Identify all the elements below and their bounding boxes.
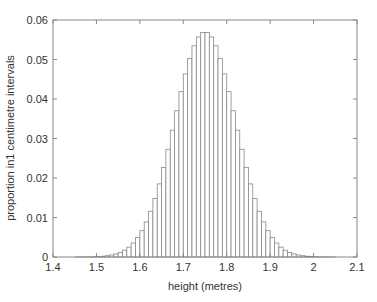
- histogram-bar: [201, 32, 205, 257]
- histogram-bar: [157, 184, 161, 257]
- histogram-bar: [175, 111, 179, 257]
- histogram-chart: 00.010.020.030.040.050.06 1.41.51.61.71.…: [0, 0, 377, 302]
- histogram-bar: [188, 58, 192, 257]
- histogram-bar: [279, 247, 283, 257]
- y-tick-label: 0.03: [27, 133, 48, 145]
- histogram-bar: [162, 167, 166, 257]
- x-tick-label: 1.5: [89, 261, 104, 273]
- y-tick-label: 0.01: [27, 212, 48, 224]
- x-tick-label: 1.9: [262, 261, 277, 273]
- y-tick-label: 0.04: [27, 93, 48, 105]
- histogram-bar: [127, 247, 131, 257]
- histogram-bar: [261, 222, 265, 257]
- histogram-bar: [222, 74, 226, 257]
- histogram-bars: [75, 32, 336, 257]
- x-tick-label: 1.7: [176, 261, 191, 273]
- histogram-bar: [253, 199, 257, 257]
- histogram-bar: [205, 32, 209, 257]
- histogram-bar: [214, 46, 218, 257]
- histogram-bar: [227, 92, 231, 257]
- histogram-bar: [266, 231, 270, 257]
- x-tick-label: 2.1: [349, 261, 364, 273]
- histogram-bar: [122, 250, 126, 257]
- y-tick-label: 0.02: [27, 172, 48, 184]
- x-tick-label: 2: [311, 261, 317, 273]
- histogram-bar: [288, 252, 292, 257]
- histogram-bar: [166, 149, 170, 257]
- histogram-bar: [153, 199, 157, 257]
- histogram-bar: [218, 58, 222, 257]
- histogram-bar: [118, 252, 122, 257]
- histogram-bar: [209, 37, 213, 257]
- histogram-bar: [131, 243, 135, 257]
- histogram-bar: [283, 250, 287, 257]
- histogram-bar: [196, 37, 200, 257]
- histogram-bar: [136, 238, 140, 257]
- x-axis-label: height (metres): [168, 280, 242, 292]
- histogram-bar: [240, 149, 244, 257]
- y-tick-label: 0.06: [27, 14, 48, 26]
- histogram-bar: [235, 130, 239, 257]
- histogram-bar: [257, 211, 261, 257]
- histogram-bar: [179, 92, 183, 257]
- x-tick-label: 1.4: [45, 261, 60, 273]
- x-tick-label: 1.6: [132, 261, 147, 273]
- histogram-bar: [144, 222, 148, 257]
- y-tick-label: 0.05: [27, 54, 48, 66]
- histogram-bar: [248, 184, 252, 257]
- histogram-bar: [274, 243, 278, 257]
- histogram-bar: [183, 74, 187, 257]
- histogram-bar: [244, 167, 248, 257]
- x-tick-label: 1.8: [219, 261, 234, 273]
- histogram-bar: [140, 231, 144, 257]
- histogram-bar: [149, 211, 153, 257]
- histogram-bar: [231, 111, 235, 257]
- histogram-bar: [170, 130, 174, 257]
- histogram-bar: [270, 238, 274, 257]
- histogram-bar: [192, 46, 196, 257]
- y-axis-label: proportion in1 centimetre intervals: [4, 55, 16, 221]
